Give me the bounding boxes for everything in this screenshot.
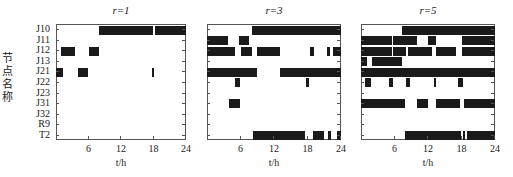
occupancy-block: [463, 131, 465, 140]
occupancy-block: [78, 68, 89, 77]
x-tick: [240, 136, 241, 139]
x-tick-label: 18: [144, 143, 164, 154]
row-label: J22: [18, 77, 50, 87]
x-axis-label: t/h: [101, 157, 141, 168]
plot-panel-3: [361, 24, 495, 140]
occupancy-block: [257, 47, 279, 56]
occupancy-block: [402, 26, 495, 35]
y-tick: [56, 40, 59, 41]
y-tick: [337, 40, 340, 41]
x-tick: [185, 136, 186, 139]
y-tick: [491, 61, 494, 62]
panel-title: r=3: [244, 4, 304, 16]
x-tick: [153, 136, 154, 139]
occupancy-block: [361, 99, 405, 108]
x-tick: [307, 136, 308, 139]
y-tick: [56, 61, 59, 62]
row-label: J32: [18, 109, 50, 119]
y-tick: [207, 103, 210, 104]
x-tick: [120, 136, 121, 139]
x-tick-label: 12: [418, 143, 438, 154]
y-tick: [491, 124, 494, 125]
y-tick: [207, 61, 210, 62]
occupancy-block: [207, 47, 235, 56]
x-tick: [461, 136, 462, 139]
x-axis-label: t/h: [408, 157, 448, 168]
y-tick: [182, 71, 185, 72]
y-tick: [56, 71, 59, 72]
y-tick: [207, 124, 210, 125]
y-tick: [56, 114, 59, 115]
y-tick: [361, 40, 364, 41]
plot-panel-1: [56, 24, 186, 140]
occupancy-block: [328, 131, 331, 140]
y-tick: [491, 50, 494, 51]
y-tick: [337, 103, 340, 104]
x-tick: [88, 136, 89, 139]
occupancy-block: [207, 36, 228, 45]
y-tick: [56, 50, 59, 51]
occupancy-block: [313, 131, 324, 140]
x-tick-label: 18: [452, 143, 472, 154]
occupancy-block: [61, 47, 75, 56]
occupancy-block: [252, 26, 341, 35]
x-tick-label: 12: [111, 143, 131, 154]
y-tick: [491, 40, 494, 41]
x-axis-label: t/h: [254, 157, 294, 168]
occupancy-block: [365, 78, 371, 87]
y-tick: [182, 124, 185, 125]
occupancy-block: [462, 47, 496, 56]
y-tick: [207, 135, 210, 136]
y-tick: [207, 40, 210, 41]
y-tick: [56, 82, 59, 83]
y-tick: [56, 135, 59, 136]
y-tick: [182, 61, 185, 62]
y-tick: [207, 50, 210, 51]
y-tick: [361, 29, 364, 30]
y-tick: [361, 71, 364, 72]
y-tick: [337, 61, 340, 62]
y-tick: [207, 29, 210, 30]
occupancy-block: [306, 78, 309, 87]
occupancy-block: [361, 68, 495, 77]
occupancy-block: [207, 68, 257, 77]
x-tick-label: 6: [231, 143, 251, 154]
row-label: J31: [18, 98, 50, 108]
x-tick-label: 6: [385, 143, 405, 154]
row-label: J21: [18, 66, 50, 76]
y-tick: [182, 40, 185, 41]
y-tick: [361, 82, 364, 83]
occupancy-block: [152, 68, 154, 77]
occupancy-block: [389, 78, 393, 87]
y-tick: [182, 93, 185, 94]
occupancy-block: [462, 36, 496, 45]
occupancy-block: [89, 47, 100, 56]
occupancy-block: [229, 99, 240, 108]
row-label: T2: [18, 130, 50, 140]
y-tick: [337, 124, 340, 125]
x-tick-label: 24: [331, 143, 351, 154]
y-tick: [361, 103, 364, 104]
y-tick: [337, 114, 340, 115]
x-tick-label: 12: [264, 143, 284, 154]
occupancy-block: [406, 78, 410, 87]
occupancy-block: [361, 47, 392, 56]
y-tick: [491, 71, 494, 72]
x-tick: [394, 136, 395, 139]
y-tick: [361, 135, 364, 136]
y-tick: [182, 50, 185, 51]
y-tick: [337, 71, 340, 72]
y-axis-label: 节点名称: [0, 52, 14, 104]
y-tick: [207, 71, 210, 72]
occupancy-block: [405, 131, 462, 140]
y-tick: [491, 29, 494, 30]
occupancy-block: [239, 36, 248, 45]
y-tick: [56, 103, 59, 104]
row-label: J11: [18, 35, 50, 45]
occupancy-block: [99, 26, 153, 35]
row-label: J12: [18, 45, 50, 55]
occupancy-block: [361, 36, 392, 45]
y-tick: [491, 93, 494, 94]
occupancy-block: [235, 78, 241, 87]
y-tick: [182, 103, 185, 104]
